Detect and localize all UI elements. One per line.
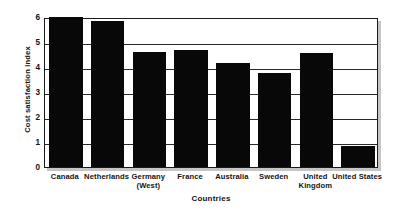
bar — [300, 53, 333, 167]
x-axis-category-label: United States — [327, 172, 387, 181]
y-axis-tick-label: 1 — [22, 139, 40, 147]
bar — [49, 17, 82, 167]
y-axis-tick-label: 2 — [22, 114, 40, 122]
bar — [91, 21, 124, 167]
bar — [133, 52, 166, 167]
x-axis-category-label-line: (West) — [118, 181, 178, 190]
bar — [341, 146, 374, 167]
y-axis-tick-label: 5 — [22, 39, 40, 47]
bar — [174, 50, 207, 168]
bar-chart-figure: Cost satisfaction index 0123456 CanadaNe… — [0, 0, 397, 211]
bar-series — [45, 19, 377, 167]
x-axis-title: Countries — [44, 194, 378, 203]
bar — [258, 73, 291, 167]
y-axis-tick-label: 0 — [22, 164, 40, 172]
y-axis-tick-label: 4 — [22, 64, 40, 72]
x-axis-category-label-line: Kingdom — [285, 181, 345, 190]
plot-area — [44, 18, 378, 168]
y-axis-tick-label: 6 — [22, 14, 40, 22]
bar — [216, 63, 249, 167]
x-axis-category-label-line: United States — [327, 172, 387, 181]
y-axis-tick-labels: 0123456 — [22, 18, 40, 168]
y-axis-tick-label: 3 — [22, 89, 40, 97]
